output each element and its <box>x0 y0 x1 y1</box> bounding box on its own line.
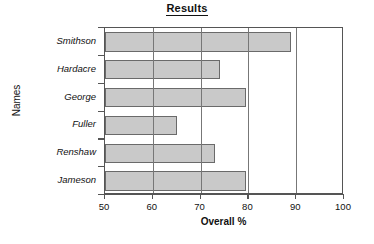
x-axis-label-80: 80 <box>242 201 253 212</box>
x-axis-tick <box>152 194 153 199</box>
x-axis-title: Overall % <box>104 216 343 227</box>
y-axis-label-fuller: Fuller <box>72 119 96 129</box>
y-axis-label-george: George <box>64 92 96 102</box>
gridline <box>153 28 154 193</box>
bar-band <box>105 32 342 51</box>
x-axis-label-50: 50 <box>99 201 110 212</box>
x-axis-tick <box>343 194 344 199</box>
y-axis-tick <box>98 55 104 56</box>
y-axis-label-jameson: Jameson <box>57 175 96 185</box>
bar-band <box>105 171 342 190</box>
y-axis-label-hardacre: Hardacre <box>57 64 96 74</box>
plot-area <box>104 27 343 194</box>
bar-fuller <box>105 116 177 135</box>
chart-title: Results <box>0 2 374 14</box>
y-axis-label-smithson: Smithson <box>56 36 96 46</box>
x-axis-label-60: 60 <box>147 201 158 212</box>
x-axis-label-70: 70 <box>194 201 205 212</box>
y-axis-label-renshaw: Renshaw <box>56 147 96 157</box>
bar-band <box>105 88 342 107</box>
bar-chart: Results SmithsonHardacreGeorgeFullerRens… <box>0 0 374 244</box>
chart-title-text: Results <box>166 2 207 16</box>
y-axis-line <box>104 27 105 194</box>
bar-band <box>105 144 342 163</box>
gridline <box>296 28 297 193</box>
gridline <box>201 28 202 193</box>
y-axis-tick <box>98 166 104 167</box>
x-axis-tick <box>295 194 296 199</box>
x-axis-line <box>104 194 343 195</box>
y-axis-tick <box>98 83 104 84</box>
bar-jameson <box>105 171 246 190</box>
gridline <box>248 28 249 193</box>
bar-smithson <box>105 32 291 51</box>
bar-band <box>105 116 342 135</box>
x-axis-label-90: 90 <box>290 201 301 212</box>
bars-layer <box>105 28 342 193</box>
bar-george <box>105 88 246 107</box>
bar-renshaw <box>105 144 215 163</box>
x-axis-tick <box>200 194 201 199</box>
x-axis-tick <box>104 194 105 199</box>
bar-hardacre <box>105 60 220 79</box>
y-axis-title: Names <box>11 71 22 131</box>
y-axis-tick <box>98 138 104 139</box>
bar-band <box>105 60 342 79</box>
y-axis-tick <box>98 111 104 112</box>
x-axis-tick <box>247 194 248 199</box>
y-axis-tick <box>98 27 104 28</box>
x-axis-label-100: 100 <box>335 201 351 212</box>
